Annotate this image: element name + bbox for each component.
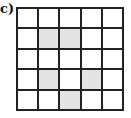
grid-cell xyxy=(59,69,80,89)
shaded-cell xyxy=(59,28,80,48)
grid-5x5 xyxy=(16,7,124,111)
grid-cell xyxy=(17,28,38,48)
figure-label: c) xyxy=(0,1,14,16)
shaded-cell xyxy=(81,69,102,89)
shaded-cell xyxy=(59,90,80,110)
grid-cell xyxy=(102,90,123,110)
shaded-cell xyxy=(38,28,59,48)
grid-cell xyxy=(102,28,123,48)
grid-cell xyxy=(17,90,38,110)
grid-cell xyxy=(102,69,123,89)
grid-cell xyxy=(38,49,59,69)
grid-cell xyxy=(17,8,38,28)
shaded-cell xyxy=(38,69,59,89)
grid-cell xyxy=(81,28,102,48)
grid-cell xyxy=(102,49,123,69)
grid-cell xyxy=(17,69,38,89)
grid-cell xyxy=(38,8,59,28)
grid-cell xyxy=(59,8,80,28)
grid-cell xyxy=(38,90,59,110)
grid-cell xyxy=(81,49,102,69)
grid-cell xyxy=(81,8,102,28)
grid-cell xyxy=(102,8,123,28)
grid-cell xyxy=(17,49,38,69)
grid-cell xyxy=(59,49,80,69)
grid-cell xyxy=(81,90,102,110)
